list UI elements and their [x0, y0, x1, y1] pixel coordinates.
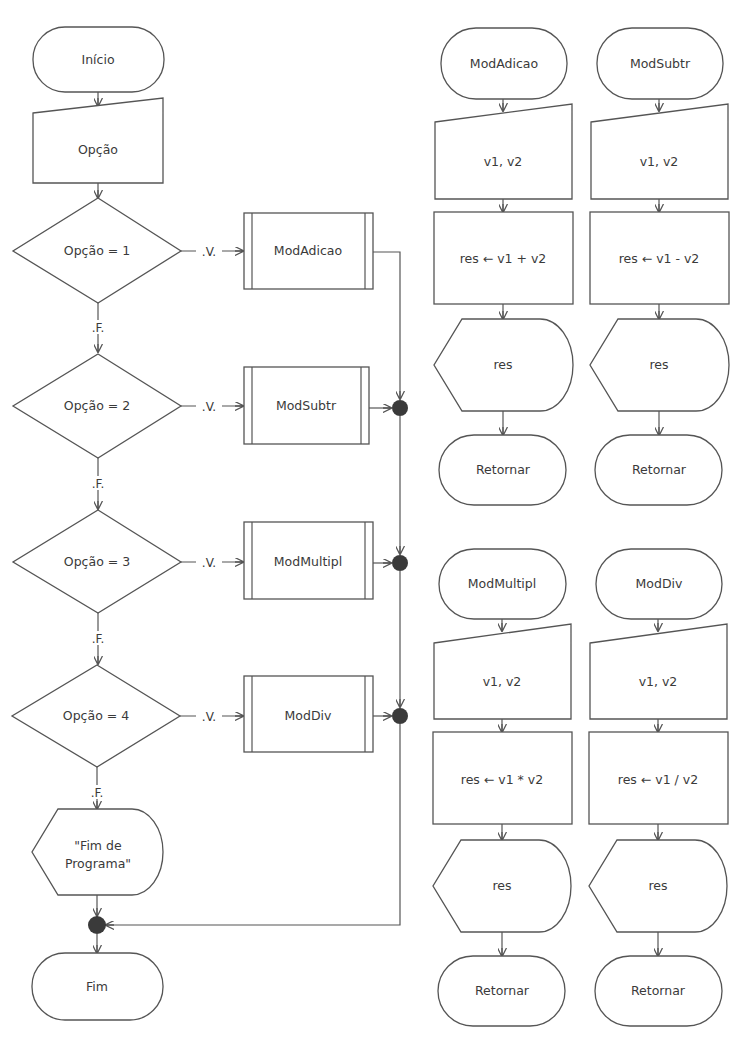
- module-modadicao-output-label: res: [493, 357, 512, 372]
- module-modsubtr-process-label: res ← v1 - v2: [619, 251, 700, 266]
- start-terminator[interactable]: Início: [33, 27, 164, 92]
- subprocess-modmultipl-label: ModMultipl: [274, 554, 342, 569]
- start-label: Início: [81, 52, 114, 67]
- subprocess-modadicao-label: ModAdicao: [274, 243, 342, 258]
- connector-dot-1: [392, 400, 408, 416]
- decision-2[interactable]: Opção = 2: [13, 354, 181, 458]
- module-moddiv-name: ModDiv: [636, 576, 683, 591]
- connector-dot-2: [392, 555, 408, 571]
- module-moddiv-input-label: v1, v2: [639, 674, 678, 689]
- subprocess-modsubtr[interactable]: ModSubtr: [244, 367, 369, 444]
- decision-4-label: Opção = 4: [63, 708, 129, 723]
- module-modadicao-input-label: v1, v2: [484, 154, 523, 169]
- module-modadicao-return[interactable]: Retornar: [439, 435, 566, 505]
- module-modmultipl-input[interactable]: v1, v2: [434, 624, 571, 719]
- connector-dot-end: [88, 916, 106, 934]
- module-modmultipl-start[interactable]: ModMultipl: [439, 549, 566, 619]
- main-flow: Início Opção Opção = 1 .V. .F. ModAdicao: [12, 27, 408, 1020]
- module-modsubtr-input-label: v1, v2: [640, 154, 679, 169]
- subprocess-moddiv-label: ModDiv: [285, 708, 332, 723]
- module-modadicao-output[interactable]: res: [434, 319, 573, 411]
- module-moddiv-output[interactable]: res: [589, 840, 727, 932]
- module-modsubtr-return[interactable]: Retornar: [595, 435, 722, 505]
- module-modadicao-start[interactable]: ModAdicao: [441, 28, 567, 99]
- decision-3-false-label: .F.: [92, 632, 105, 646]
- subprocess-modsubtr-label: ModSubtr: [276, 398, 337, 413]
- module-modmultipl-process[interactable]: res ← v1 * v2: [433, 732, 572, 824]
- flowchart-canvas: Início Opção Opção = 1 .V. .F. ModAdicao: [0, 0, 742, 1041]
- module-modadicao-name: ModAdicao: [470, 56, 538, 71]
- subprocess-modadicao[interactable]: ModAdicao: [244, 213, 373, 289]
- module-modsubtr-name: ModSubtr: [630, 56, 691, 71]
- decision-3[interactable]: Opção = 3: [13, 510, 181, 613]
- module-modsubtr-return-label: Retornar: [632, 462, 687, 477]
- decision-1[interactable]: Opção = 1: [13, 198, 181, 303]
- end-terminator[interactable]: Fim: [32, 953, 163, 1020]
- decision-1-false-label: .F.: [92, 321, 105, 335]
- module-modsubtr-start[interactable]: ModSubtr: [597, 28, 723, 99]
- option-input[interactable]: Opção: [33, 98, 163, 183]
- module-moddiv-start[interactable]: ModDiv: [596, 549, 722, 619]
- module-moddiv-output-label: res: [648, 878, 667, 893]
- subprocess-moddiv[interactable]: ModDiv: [244, 676, 373, 752]
- module-modmultipl-output[interactable]: res: [433, 840, 571, 932]
- decision-2-false-label: .F.: [92, 477, 105, 491]
- decision-3-label: Opção = 3: [64, 554, 130, 569]
- module-modadicao: ModAdicao v1, v2 res ← v1 + v2 res Retor…: [434, 28, 573, 505]
- decision-4[interactable]: Opção = 4: [12, 665, 180, 767]
- module-modsubtr: ModSubtr v1, v2 res ← v1 - v2 res Retorn…: [590, 28, 729, 505]
- module-modmultipl-return-label: Retornar: [475, 983, 530, 998]
- decision-2-true-label: .V.: [202, 400, 216, 414]
- module-moddiv: ModDiv v1, v2 res ← v1 / v2 res Retornar: [589, 549, 728, 1026]
- decision-3-true-label: .V.: [202, 556, 216, 570]
- module-modmultipl-name: ModMultipl: [468, 576, 536, 591]
- module-modsubtr-output-label: res: [649, 357, 668, 372]
- module-modadicao-process[interactable]: res ← v1 + v2: [434, 212, 573, 304]
- module-moddiv-return[interactable]: Retornar: [595, 956, 722, 1026]
- decision-2-label: Opção = 2: [64, 398, 130, 413]
- display-end-message-line2: Programa": [65, 856, 131, 871]
- display-end-message[interactable]: "Fim de Programa": [32, 809, 163, 895]
- decision-1-label: Opção = 1: [64, 243, 130, 258]
- module-modsubtr-process[interactable]: res ← v1 - v2: [590, 212, 729, 304]
- module-modsubtr-input[interactable]: v1, v2: [591, 104, 728, 199]
- module-modadicao-return-label: Retornar: [476, 462, 531, 477]
- display-end-message-line1: "Fim de: [74, 838, 122, 853]
- decision-4-true-label: .V.: [202, 710, 216, 724]
- module-modmultipl: ModMultipl v1, v2 res ← v1 * v2 res Reto…: [433, 549, 572, 1026]
- decision-1-true-label: .V.: [202, 245, 216, 259]
- end-label: Fim: [86, 979, 108, 994]
- module-modadicao-input[interactable]: v1, v2: [435, 104, 572, 199]
- module-moddiv-input[interactable]: v1, v2: [590, 624, 727, 719]
- connector-dot-3: [392, 708, 408, 724]
- module-modadicao-process-label: res ← v1 + v2: [460, 251, 547, 266]
- module-modsubtr-output[interactable]: res: [590, 319, 729, 411]
- module-moddiv-process[interactable]: res ← v1 / v2: [589, 732, 728, 824]
- decision-4-false-label: .F.: [91, 786, 104, 800]
- module-modmultipl-return[interactable]: Retornar: [438, 956, 565, 1026]
- module-modmultipl-process-label: res ← v1 * v2: [461, 772, 543, 787]
- module-moddiv-return-label: Retornar: [631, 983, 686, 998]
- module-modmultipl-output-label: res: [492, 878, 511, 893]
- module-moddiv-process-label: res ← v1 / v2: [618, 772, 698, 787]
- module-modmultipl-input-label: v1, v2: [483, 674, 522, 689]
- subprocess-modmultipl[interactable]: ModMultipl: [244, 522, 373, 599]
- option-input-label: Opção: [78, 142, 118, 157]
